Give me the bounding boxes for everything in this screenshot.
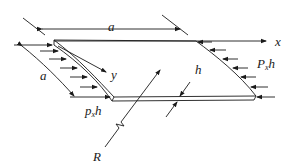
label-a-top: a xyxy=(108,20,115,33)
thickness-arrow-top xyxy=(180,82,190,96)
plate-diagram: a a x y h R pxh Pxh xyxy=(0,0,291,167)
label-x-axis: x xyxy=(275,35,281,48)
label-thickness-h: h xyxy=(195,63,202,76)
label-radius-r: R xyxy=(93,150,101,163)
diagram-drawing xyxy=(0,0,291,167)
thickness-arrow-bottom xyxy=(166,102,177,117)
dimension-tick-left xyxy=(23,18,45,35)
label-y-axis: y xyxy=(111,68,117,81)
label-a-left: a xyxy=(40,69,47,82)
label-load-right: Pxh xyxy=(257,57,275,72)
label-load-left: pxh xyxy=(85,104,102,119)
dimension-tick-right xyxy=(162,15,188,35)
